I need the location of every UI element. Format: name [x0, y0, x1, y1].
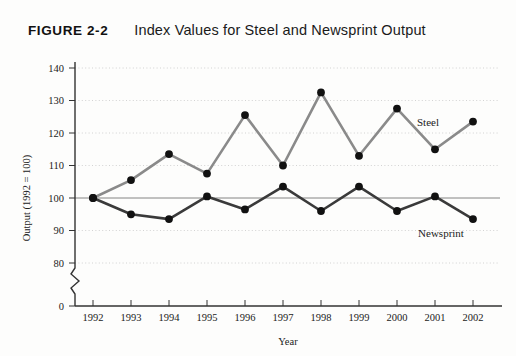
y-tick-140: 140: [48, 63, 64, 74]
x-tick-1994: 1994: [159, 312, 181, 323]
x-tick-2001: 2001: [425, 312, 446, 323]
series-label-steel: Steel: [417, 116, 439, 128]
y-tick-100: 100: [48, 193, 64, 204]
data-point-newsprint-1996: [241, 206, 249, 214]
data-point-steel-1995: [203, 170, 211, 178]
data-point-newsprint-1993: [127, 210, 135, 218]
x-tick-2002: 2002: [463, 312, 484, 323]
data-point-steel-1994: [165, 150, 173, 158]
y-tick-90: 90: [54, 225, 65, 236]
series-line-steel: [93, 92, 473, 198]
x-tick-1992: 1992: [83, 312, 104, 323]
data-point-steel-2001: [431, 145, 439, 153]
x-tick-1997: 1997: [273, 312, 294, 323]
y-axis-with-break: [71, 62, 79, 306]
data-point-newsprint-1998: [317, 207, 325, 215]
x-tick-labels: 1992 1993 1994 1995 1996 1997 1998 1999 …: [83, 312, 484, 323]
data-point-steel-1997: [279, 162, 287, 170]
y-tick-110: 110: [49, 160, 64, 171]
y-tick-130: 130: [48, 95, 64, 106]
data-point-newsprint-2000: [393, 207, 401, 215]
series-line-newsprint: [93, 187, 473, 220]
data-point-steel-2000: [393, 105, 401, 113]
x-tickmarks: [93, 300, 473, 306]
figure-container: FIGURE 2-2 Index Values for Steel and Ne…: [0, 0, 516, 356]
x-tick-1996: 1996: [235, 312, 256, 323]
data-point-steel-1999: [355, 152, 363, 160]
x-tick-1993: 1993: [121, 312, 142, 323]
data-point-newsprint-1997: [279, 183, 287, 191]
y-tick-0: 0: [59, 301, 64, 312]
data-point-newsprint-2002: [469, 215, 477, 223]
series-layer: [89, 89, 477, 224]
data-point-steel-1996: [241, 111, 249, 119]
y-axis-title: Output (1992 = 100): [21, 154, 33, 241]
series-label-newsprint: Newsprint: [418, 227, 464, 239]
data-point-steel-2002: [469, 118, 477, 126]
x-tick-2000: 2000: [387, 312, 408, 323]
data-point-newsprint-2001: [431, 193, 439, 201]
y-tick-80: 80: [54, 258, 65, 269]
x-tick-1999: 1999: [349, 312, 370, 323]
data-point-steel-1993: [127, 176, 135, 184]
data-point-steel-1998: [317, 89, 325, 97]
y-tick-labels: 140 130 120 110 100 90 80 0: [48, 63, 64, 312]
data-point-newsprint-1992: [89, 194, 97, 202]
x-tick-1995: 1995: [197, 312, 218, 323]
x-tick-1998: 1998: [311, 312, 332, 323]
data-point-newsprint-1995: [203, 193, 211, 201]
data-point-newsprint-1999: [355, 183, 363, 191]
data-point-newsprint-1994: [165, 215, 173, 223]
chart-plot: 140 130 120 110 100 90 80 0 Output (1992…: [0, 0, 516, 356]
x-axis-title: Year: [278, 336, 298, 347]
y-tick-120: 120: [48, 128, 64, 139]
